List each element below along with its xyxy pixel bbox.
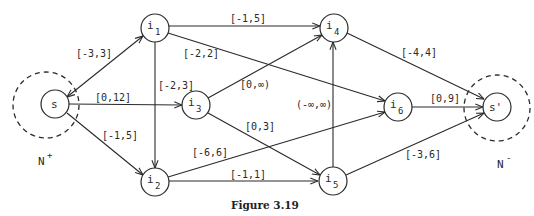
- edge-label-i1-i2: [-2,3]: [158, 80, 194, 91]
- svg-text:5: 5: [333, 180, 338, 190]
- svg-text:+: +: [47, 150, 53, 160]
- edge-label-s-i1: [-3,3]: [76, 48, 112, 59]
- edge-s-i2: [67, 113, 143, 175]
- edge-label-i2-i5: [-1,1]: [230, 169, 266, 180]
- svg-text:i: i: [147, 173, 154, 186]
- node-i1: i 1: [141, 14, 169, 42]
- svg-text:6: 6: [398, 106, 403, 116]
- flow-network-diagram: [-3,3] [0,12] [-1,5] [-2,3] [-1,5] [-2,2…: [0, 0, 534, 216]
- svg-text:i: i: [390, 98, 397, 111]
- svg-text:-: -: [506, 153, 511, 163]
- svg-text:s': s': [489, 101, 502, 114]
- edge-s-i3: [69, 104, 182, 105]
- svg-text:2: 2: [155, 181, 160, 191]
- edge-i4-t: [347, 33, 484, 99]
- edge-label-i1-i4: [-1,5]: [230, 13, 266, 24]
- node-s-prime: s': [483, 93, 511, 121]
- node-i6: i 6: [384, 93, 412, 121]
- figure-caption: Figure 3.19: [231, 199, 299, 211]
- node-s: s: [41, 90, 69, 118]
- svg-text:i: i: [188, 96, 195, 109]
- source-set-label: N +: [38, 150, 53, 168]
- svg-text:N: N: [497, 158, 504, 171]
- edge-label-i4-t: [-4,4]: [401, 47, 437, 58]
- edge-i2-i6: [168, 112, 385, 177]
- edge-label-i1-i6: [-2,2]: [183, 48, 219, 59]
- node-label-s: s: [51, 98, 58, 111]
- node-i2: i 2: [141, 168, 169, 196]
- edge-label-i5-t: [-3,6]: [405, 149, 441, 160]
- edge-label-i3-i4: [0,∞): [240, 79, 270, 90]
- edge-i5-t: [346, 113, 484, 175]
- sink-set-label: N -: [497, 153, 511, 171]
- edge-label-i3-i5: [0,3]: [245, 121, 275, 132]
- edge-s-i1: [67, 36, 143, 97]
- edge-label-s-i2: [-1,5]: [102, 130, 138, 141]
- svg-text:N: N: [38, 155, 45, 168]
- node-i4: i 4: [320, 14, 348, 42]
- svg-text:i: i: [147, 19, 154, 32]
- edge-label-i2-i6: [-6,6]: [192, 147, 228, 158]
- svg-text:1: 1: [155, 27, 160, 37]
- svg-text:i: i: [326, 19, 333, 32]
- node-i3: i 3: [182, 91, 210, 119]
- edge-label-i6-t: [0,9]: [430, 93, 460, 104]
- edge-label-s-i3: [0,12]: [95, 92, 131, 103]
- edge-label-i5-i4: (-∞,∞): [296, 99, 332, 110]
- node-i5: i 5: [319, 167, 347, 195]
- svg-text:4: 4: [334, 27, 339, 37]
- svg-text:3: 3: [196, 104, 201, 114]
- edge-i1-i6: [168, 33, 385, 101]
- svg-text:i: i: [325, 172, 332, 185]
